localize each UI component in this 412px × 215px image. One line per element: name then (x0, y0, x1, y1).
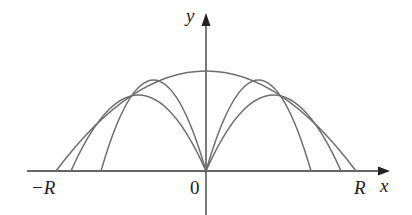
trajectory-left-outer (71, 95, 206, 171)
trajectory-right-outer (206, 95, 341, 171)
trajectory-left-inner (101, 80, 206, 171)
y-axis-arrow-icon (202, 13, 211, 26)
trajectory-right-inner (206, 80, 311, 171)
x-axis-label: x (380, 176, 388, 195)
origin-label: 0 (190, 178, 200, 197)
R-label: R (354, 178, 366, 197)
y-axis-label: y (186, 6, 194, 25)
diagram-canvas (0, 0, 412, 215)
negative-R-label: −R (31, 178, 55, 197)
trajectory-diagram: y x −R R 0 (0, 0, 412, 215)
